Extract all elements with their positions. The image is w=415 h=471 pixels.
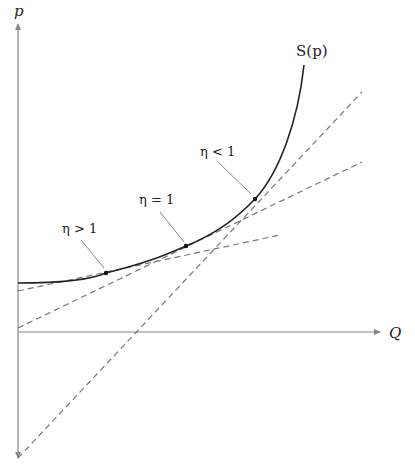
leader-inelastic — [218, 162, 251, 194]
supply-curve — [18, 65, 304, 283]
point-inelastic — [253, 197, 257, 201]
tangent-line-inelastic — [18, 92, 362, 458]
supply-curve-label: S(p) — [296, 42, 328, 60]
y-axis-label: p — [14, 2, 24, 20]
label-elastic: η > 1 — [62, 221, 97, 236]
label-unit-elastic: η = 1 — [139, 192, 174, 207]
point-elastic — [104, 271, 108, 275]
leader-elastic — [81, 240, 104, 268]
leader-unit — [160, 212, 184, 242]
x-axis-label: Q — [389, 324, 401, 342]
label-inelastic: η < 1 — [200, 144, 235, 159]
point-unit-elastic — [184, 244, 188, 248]
supply-elasticity-diagram: p Q S(p) η > 1 η = 1 η < 1 — [0, 0, 415, 471]
